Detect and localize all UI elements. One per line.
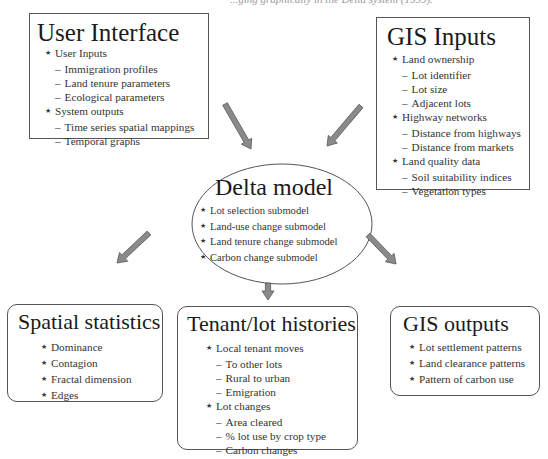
arrow-ui-to-delta-icon	[223, 103, 252, 149]
arrow-gis-to-delta-icon	[327, 104, 363, 146]
arrows-layer	[0, 0, 548, 459]
arrow-delta-to-gisout-icon	[366, 233, 396, 264]
arrow-delta-to-tenant-icon	[262, 283, 274, 300]
arrow-delta-to-spatial-icon	[117, 231, 151, 263]
